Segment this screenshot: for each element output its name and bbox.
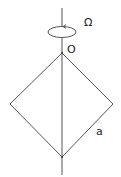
bottom-vertex [61, 156, 63, 158]
omega-label: Ω [84, 16, 92, 29]
rotation-ellipse-icon [48, 27, 76, 38]
origin-label: O [67, 43, 76, 56]
rotating-square-diagram: Ω O a [0, 0, 121, 177]
pivot-point [61, 52, 63, 54]
side-length-label: a [96, 125, 103, 138]
